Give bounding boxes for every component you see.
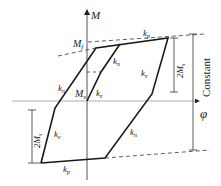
mf-label: Mf bbox=[72, 38, 84, 51]
ke-right-label: ke bbox=[141, 68, 148, 79]
kp-top-label: kp bbox=[143, 28, 150, 39]
kn-right-label: kn bbox=[130, 127, 137, 138]
kn-inner-label: kn bbox=[113, 56, 120, 67]
dim-left-label: 2Ms bbox=[32, 133, 43, 148]
hysteresis-diagram: M φ Mf Ms kp kn kn ke ke ke kn kp 2Ms 2M… bbox=[0, 0, 221, 186]
dash-left-extension bbox=[58, 48, 96, 56]
ke-left-label: ke bbox=[54, 129, 61, 140]
ms-label: Ms bbox=[74, 88, 86, 101]
constant-label: Constant bbox=[200, 58, 212, 97]
dash-bottom-line bbox=[105, 150, 210, 158]
phi-axis-label: φ bbox=[200, 106, 207, 121]
kn-left-label: kn bbox=[58, 83, 65, 94]
kp-bottom-label: kp bbox=[63, 164, 70, 175]
dim-right-label: 2Ms bbox=[175, 63, 186, 78]
hysteresis-loop bbox=[41, 38, 168, 163]
m-axis-label: M bbox=[90, 9, 101, 21]
ke-inner-label: ke bbox=[96, 88, 103, 99]
